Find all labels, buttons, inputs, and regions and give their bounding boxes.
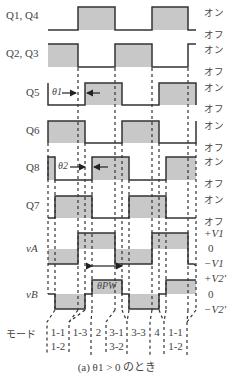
va-minus-label: −V1 [204,257,224,269]
waveform-va [48,233,196,266]
vb-zero-label: 0 [208,288,214,300]
waveform-q5 [48,83,196,105]
va-plus-label: +V1 [204,227,224,239]
q7-on-label: オン [204,192,224,206]
label-q1-q4: Q1, Q4 [6,9,38,21]
label-q8: Q8 [26,161,39,173]
mode-label: モード [6,326,36,341]
q8-off-label: オフ [204,176,224,190]
q1-on-label: オン [204,5,224,19]
mode-cell: 4 [150,325,164,339]
q2-on-label: オン [204,42,224,56]
theta2-label: θ2 [58,160,68,171]
figure-caption: (a) θ1 > 0 のとき [0,358,234,374]
label-va: vA [26,242,38,254]
mode-cell: 1-11-2 [47,325,69,353]
va-zero-label: 0 [208,242,214,254]
q1-off-label: オフ [204,27,224,41]
label-q5: Q5 [26,86,39,98]
q6-on-label: オン [204,118,224,132]
label-vb: vB [26,288,38,300]
theta-pw-label: θPW [97,280,116,291]
q5-on-label: オン [204,80,224,94]
label-q2-q3: Q2, Q3 [6,47,38,59]
mode-cell: 3-3 [127,325,150,339]
label-q7: Q7 [26,199,39,211]
theta1-label: θ1 [52,86,62,97]
q7-off-label: オフ [204,214,224,228]
q2-off-label: オフ [204,64,224,78]
vb-minus-label: −V2′ [204,303,226,315]
mode-cell: 1-11-2 [164,325,187,353]
q6-off-label: オフ [204,140,224,154]
mode-cell: 2 [91,325,106,339]
mode-cell: 1-3 [69,325,91,339]
label-q6: Q6 [26,124,39,136]
vb-plus-label: +V2′ [204,272,226,284]
q5-off-label: オフ [204,101,224,115]
q8-on-label: オン [204,154,224,168]
waveform-q2-q3 [48,44,196,67]
waveform-q6 [48,121,196,143]
mode-cell: 3-13-2 [106,325,127,353]
waveform-q1-q4 [48,7,196,30]
